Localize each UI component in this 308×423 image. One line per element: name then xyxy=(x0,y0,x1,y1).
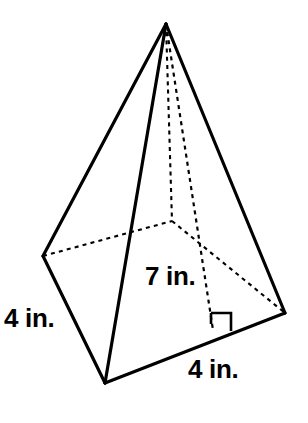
lateral-edge-apex-front xyxy=(105,24,166,383)
hidden-base-edge-left-back xyxy=(43,221,172,256)
dimension-label-left-side: 4 in. xyxy=(4,305,55,331)
dimension-label-height: 7 in. xyxy=(145,263,196,289)
pyramid-figure: 4 in. 7 in. 4 in. xyxy=(0,0,308,423)
right-angle-icon xyxy=(211,313,231,331)
pyramid-drawing xyxy=(0,0,308,423)
hidden-lateral-edge-apex-back xyxy=(166,24,172,221)
dimension-label-base-front: 4 in. xyxy=(188,356,239,382)
